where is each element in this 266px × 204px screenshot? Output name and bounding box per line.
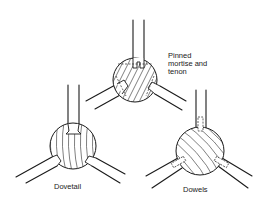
label-pinned-mortise-and-tenon: Pinned mortise and tenon (168, 52, 207, 76)
diagram-canvas (0, 0, 266, 204)
dowels-joint (146, 90, 252, 192)
dowel-pin (198, 117, 203, 131)
joinery-diagram: Pinned mortise and tenon Dovetail Dowels (0, 0, 266, 204)
dovetail-joint (16, 85, 125, 183)
label-dowels: Dowels (183, 186, 208, 194)
label-dovetail: Dovetail (54, 183, 81, 191)
